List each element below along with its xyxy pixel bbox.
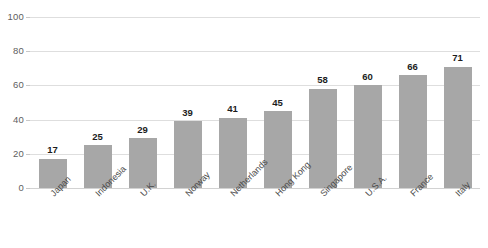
bar-value-label: 17 [39,145,67,155]
bar-slot: 58 [309,17,337,188]
bar-value-label: 71 [444,53,472,63]
y-axis-tick-label: 100 [0,12,24,22]
y-axis-tick-label: 60 [0,80,24,90]
y-axis-tick-label: 80 [0,46,24,56]
bar-value-label: 29 [129,125,157,135]
bar [354,85,382,188]
bar-chart: 020406080100 17252939414558606671 JapanI… [0,0,488,248]
bar-slot: 29 [129,17,157,188]
x-axis-labels: JapanIndonesiaU.K.NorwayNetherlandsHong … [30,188,480,248]
bar-value-label: 41 [219,104,247,114]
bar-slot: 39 [174,17,202,188]
bar-slot: 25 [84,17,112,188]
bar-series: 17252939414558606671 [30,17,480,188]
bar-slot: 66 [399,17,427,188]
y-axis-tick-label: 40 [0,115,24,125]
bar-value-label: 25 [84,132,112,142]
bar [399,75,427,188]
bar-value-label: 60 [354,72,382,82]
bar-value-label: 66 [399,62,427,72]
bar-value-label: 45 [264,98,292,108]
bar-slot: 60 [354,17,382,188]
bar-slot: 41 [219,17,247,188]
bar-value-label: 58 [309,75,337,85]
bar [444,67,472,188]
bar-slot: 71 [444,17,472,188]
bar-slot: 17 [39,17,67,188]
y-axis-tick-label: 0 [0,183,24,193]
bar [309,89,337,188]
y-axis-tick-label: 20 [0,149,24,159]
bar-value-label: 39 [174,108,202,118]
